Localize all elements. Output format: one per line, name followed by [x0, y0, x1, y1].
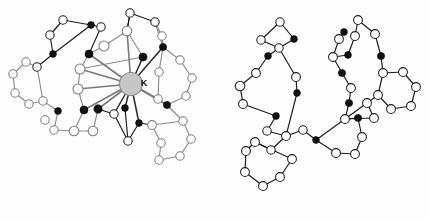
- carbon-atom: [11, 89, 19, 97]
- oxygen-atom: [354, 114, 361, 121]
- carbon-atom: [33, 63, 41, 71]
- carbon-atom: [122, 26, 132, 36]
- carbon-atom: [329, 53, 338, 62]
- chemical-bond: [316, 119, 345, 140]
- oxygen-atom: [345, 99, 352, 106]
- chemical-bond: [243, 104, 276, 116]
- carbon-atom: [276, 18, 284, 26]
- carbon-atom: [110, 110, 118, 118]
- carbon-atom: [387, 105, 396, 114]
- carbon-atom: [412, 83, 421, 92]
- structure-canvas: K: [0, 0, 430, 222]
- carbon-atom: [182, 92, 190, 100]
- carbon-atom: [50, 126, 58, 134]
- carbon-atom: [73, 84, 83, 94]
- carbon-atom: [351, 32, 360, 41]
- carbon-atom: [157, 139, 165, 147]
- oxygen-atom: [55, 108, 62, 115]
- carbon-atom: [242, 147, 251, 156]
- oxygen-atom: [313, 137, 320, 144]
- carbon-atom: [124, 137, 132, 145]
- carbon-atom: [25, 100, 33, 108]
- carbon-atom: [155, 156, 163, 164]
- oxygen-atom: [85, 50, 93, 58]
- carbon-atom: [335, 35, 344, 44]
- carbon-atom: [332, 149, 341, 158]
- atoms-layer: [9, 9, 421, 191]
- carbon-atom: [46, 31, 54, 39]
- oxygen-atom: [80, 106, 88, 114]
- oxygen-atom: [94, 105, 102, 113]
- molecular-structure-figure: K: [0, 0, 430, 222]
- carbon-atom: [259, 182, 268, 191]
- carbon-atom: [267, 146, 275, 154]
- carbon-atom: [370, 114, 379, 123]
- oxygen-atom: [265, 53, 272, 60]
- atom-label-k: K: [141, 78, 148, 88]
- carbon-atom: [354, 16, 363, 25]
- oxygen-atom: [88, 22, 95, 29]
- carbon-atom: [299, 126, 307, 134]
- carbon-atom: [148, 121, 157, 130]
- chemical-bond: [80, 57, 143, 69]
- carbon-atom: [351, 150, 360, 159]
- carbon-atom: [341, 115, 350, 124]
- carbon-atom: [75, 64, 85, 74]
- carbon-atom: [88, 126, 98, 136]
- carbon-atom: [22, 58, 30, 66]
- oxygen-atom: [139, 53, 147, 61]
- carbon-atom: [276, 173, 285, 182]
- carbon-atom: [241, 168, 250, 177]
- chemical-bond: [286, 93, 297, 136]
- carbon-atom: [39, 97, 47, 105]
- oxygen-atom: [341, 29, 348, 36]
- carbon-atom: [292, 73, 301, 82]
- carbon-atom: [374, 91, 383, 100]
- oxygen-atom: [163, 101, 170, 108]
- oxygen-atom: [136, 120, 143, 127]
- oxygen-atom: [345, 52, 352, 59]
- carbon-atom: [126, 9, 134, 17]
- carbon-atom: [99, 41, 109, 51]
- carbon-atom: [282, 132, 291, 141]
- oxygen-atom: [294, 90, 301, 97]
- chemical-bond: [37, 67, 43, 101]
- carbon-atom: [188, 74, 196, 82]
- carbon-atom: [9, 70, 17, 78]
- carbon-atom: [151, 18, 159, 26]
- carbon-atom: [176, 56, 184, 64]
- carbon-atom: [97, 23, 105, 31]
- oxygen-atom: [273, 113, 280, 120]
- carbon-atom: [399, 68, 408, 77]
- carbon-atom: [407, 102, 416, 111]
- carbon-atom: [69, 126, 79, 136]
- carbon-atom: [59, 16, 67, 24]
- carbon-atom: [235, 81, 245, 91]
- oxygen-atom: [377, 52, 384, 59]
- oxygen-atom: [159, 43, 166, 50]
- oxygen-atom: [50, 51, 57, 58]
- oxygen-atom: [122, 105, 129, 112]
- carbon-atom: [155, 68, 163, 76]
- atom-labels-layer: K: [141, 78, 148, 88]
- carbon-atom: [252, 69, 261, 78]
- carbon-atom: [371, 30, 380, 39]
- carbon-atom: [158, 32, 166, 40]
- carbon-atom: [239, 100, 248, 109]
- carbon-atom: [251, 138, 260, 147]
- oxygen-atom: [291, 36, 298, 43]
- carbon-atom: [257, 36, 265, 44]
- carbon-atom: [154, 95, 162, 103]
- carbon-atom: [363, 99, 372, 108]
- carbon-atom: [358, 133, 367, 142]
- oxygen-atom: [338, 69, 345, 76]
- carbon-atom: [41, 116, 49, 124]
- carbon-atom: [263, 127, 271, 135]
- carbon-atom: [288, 155, 297, 164]
- carbon-atom: [347, 84, 356, 93]
- carbon-atom: [176, 152, 184, 160]
- carbon-atom: [275, 44, 283, 52]
- carbon-atom: [379, 69, 388, 78]
- chemical-bond: [279, 48, 296, 77]
- carbon-atom: [179, 117, 187, 125]
